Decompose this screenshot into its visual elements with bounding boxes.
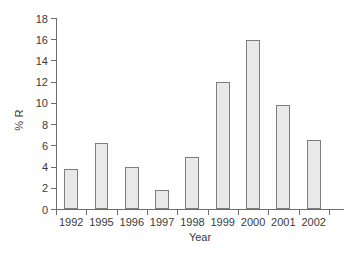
x-tick bbox=[117, 210, 118, 215]
y-tick-label: 8 bbox=[42, 119, 48, 130]
x-tick bbox=[238, 210, 239, 215]
bar-1998 bbox=[185, 157, 199, 209]
x-tick-label-1997: 1997 bbox=[147, 216, 177, 228]
y-tick-label: 4 bbox=[42, 162, 48, 173]
bar-1999 bbox=[216, 82, 230, 209]
y-tick-label: 10 bbox=[36, 98, 48, 109]
x-tick-label-2002: 2002 bbox=[299, 216, 329, 228]
x-tick-label-1998: 1998 bbox=[177, 216, 207, 228]
x-tick bbox=[268, 210, 269, 215]
bar-2002 bbox=[307, 140, 321, 209]
x-tick bbox=[177, 210, 178, 215]
bar-chart-figure: % R 024681012141618 19921995199619971998… bbox=[0, 0, 353, 253]
x-axis-line bbox=[56, 209, 344, 210]
x-tick bbox=[147, 210, 148, 215]
y-tick-18: 18 bbox=[51, 18, 56, 19]
x-tick-label-1996: 1996 bbox=[117, 216, 147, 228]
x-tick bbox=[56, 210, 57, 215]
y-tick-10: 10 bbox=[51, 103, 56, 104]
y-tick-label: 12 bbox=[36, 77, 48, 88]
x-tick bbox=[208, 210, 209, 215]
y-tick-label: 0 bbox=[42, 204, 48, 215]
bar-2001 bbox=[276, 105, 290, 209]
x-tick-label-2001: 2001 bbox=[268, 216, 298, 228]
y-tick-label: 18 bbox=[36, 13, 48, 24]
plot-area: 024681012141618 199219951996199719981999… bbox=[56, 18, 344, 210]
x-tick-label-2000: 2000 bbox=[238, 216, 268, 228]
x-tick-label-1999: 1999 bbox=[208, 216, 238, 228]
y-axis-line bbox=[56, 18, 57, 210]
y-tick-12: 12 bbox=[51, 82, 56, 83]
y-tick-8: 8 bbox=[51, 124, 56, 125]
y-tick-2: 2 bbox=[51, 188, 56, 189]
y-tick-16: 16 bbox=[51, 39, 56, 40]
y-tick-label: 14 bbox=[36, 55, 48, 66]
bar-2000 bbox=[246, 40, 260, 209]
x-tick-label-1992: 1992 bbox=[56, 216, 86, 228]
y-axis-title: % R bbox=[10, 90, 28, 150]
y-tick-label: 2 bbox=[42, 183, 48, 194]
y-axis-title-label: % R bbox=[13, 109, 25, 130]
x-axis-title-label: Year bbox=[189, 231, 211, 243]
bar-1997 bbox=[155, 190, 169, 209]
y-tick-label: 6 bbox=[42, 140, 48, 151]
bar-1996 bbox=[125, 167, 139, 209]
y-tick-label: 16 bbox=[36, 34, 48, 45]
x-tick-label-1995: 1995 bbox=[86, 216, 116, 228]
x-tick bbox=[299, 210, 300, 215]
y-tick-6: 6 bbox=[51, 145, 56, 146]
bar-1992 bbox=[64, 169, 78, 209]
x-tick bbox=[86, 210, 87, 215]
y-tick-4: 4 bbox=[51, 167, 56, 168]
x-axis-title: Year bbox=[56, 231, 344, 243]
bar-1995 bbox=[95, 143, 109, 209]
x-tick bbox=[329, 210, 330, 215]
y-tick-14: 14 bbox=[51, 60, 56, 61]
